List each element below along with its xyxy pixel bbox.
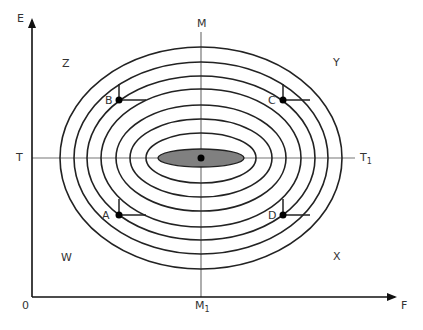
label-M1: M1 bbox=[195, 300, 210, 314]
quadrant-label-Y: Y bbox=[333, 57, 340, 68]
y-axis-label: E bbox=[17, 13, 24, 24]
point-A bbox=[116, 212, 123, 219]
quadrant-label-Z: Z bbox=[62, 58, 70, 69]
label-T: T bbox=[16, 152, 23, 163]
label-M: M bbox=[197, 18, 207, 29]
point-label-A: A bbox=[102, 210, 110, 221]
point-B bbox=[116, 97, 123, 104]
point-D bbox=[280, 212, 287, 219]
point-label-D: D bbox=[268, 210, 276, 221]
point-C bbox=[280, 97, 287, 104]
origin-label: 0 bbox=[22, 300, 29, 311]
point-label-C: C bbox=[268, 95, 276, 106]
label-T1-sub: 1 bbox=[367, 157, 372, 166]
quadrant-label-W: W bbox=[61, 252, 72, 263]
center-point bbox=[198, 155, 205, 162]
point-label-B: B bbox=[105, 95, 113, 106]
diagram-canvas: E F 0 M M1 T T1 Z Y W X B C A D bbox=[0, 0, 423, 330]
x-axis-label: F bbox=[401, 300, 407, 311]
label-T1: T1 bbox=[360, 152, 372, 166]
label-M1-base: M bbox=[195, 299, 205, 312]
label-M1-sub: 1 bbox=[205, 305, 210, 314]
label-T1-base: T bbox=[360, 151, 367, 164]
quadrant-label-X: X bbox=[333, 251, 341, 262]
